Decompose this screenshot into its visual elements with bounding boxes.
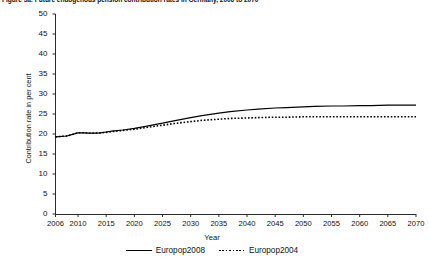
chart-series-group bbox=[56, 105, 417, 137]
y-tick-label: 50 bbox=[22, 10, 48, 18]
y-tick-label: 5 bbox=[22, 190, 48, 198]
y-tick-label: 20 bbox=[22, 130, 48, 138]
legend-swatch-solid-icon bbox=[126, 248, 152, 254]
x-tick-label: 2070 bbox=[396, 220, 429, 228]
series-line-europop2004 bbox=[56, 117, 417, 137]
chart-legend: Europop2008Europop2004 bbox=[0, 246, 424, 255]
chart-plot-area: Contribution rate in per cent 0510152025… bbox=[0, 0, 424, 236]
y-tick-label: 45 bbox=[22, 30, 48, 38]
y-tick-label: 10 bbox=[22, 170, 48, 178]
y-tick-label: 40 bbox=[22, 50, 48, 58]
y-tick-label: 30 bbox=[22, 90, 48, 98]
y-tick-label: 15 bbox=[22, 150, 48, 158]
legend-label: Europop2008 bbox=[156, 246, 205, 255]
legend-label: Europop2004 bbox=[249, 246, 298, 255]
y-tick-label: 35 bbox=[22, 70, 48, 78]
chart-svg bbox=[0, 0, 424, 236]
legend-item-europop2004[interactable]: Europop2004 bbox=[219, 246, 298, 255]
y-tick-label: 25 bbox=[22, 110, 48, 118]
legend-swatch-dotted-icon bbox=[219, 248, 245, 254]
y-tick-label: 0 bbox=[22, 210, 48, 218]
chart-axes bbox=[53, 14, 417, 217]
legend-item-europop2008[interactable]: Europop2008 bbox=[126, 246, 205, 255]
x-axis-label: Year bbox=[0, 233, 424, 242]
